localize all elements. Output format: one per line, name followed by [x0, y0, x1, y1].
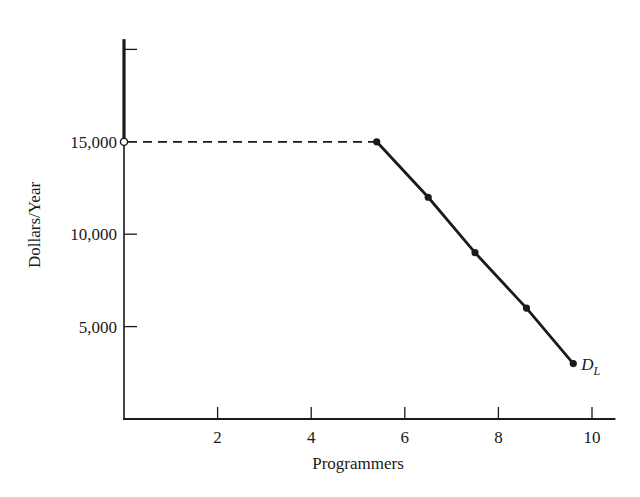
x-tick-label: 2: [213, 428, 222, 447]
series-label-subscript: L: [593, 364, 601, 378]
y-tick-label: 5,000: [79, 318, 117, 337]
data-point: [471, 249, 478, 256]
series-label-dl: DL: [580, 355, 600, 378]
y-ticks: 5,00010,00015,000: [70, 49, 137, 336]
data-point: [425, 194, 432, 201]
x-tick-label: 8: [494, 428, 503, 447]
data-point: [373, 138, 380, 145]
labor-demand-chart: 246810 5,00010,00015,000 Programmers Dol…: [0, 0, 640, 497]
data-point: [523, 305, 530, 312]
x-ticks: 246810: [213, 407, 600, 447]
series-dl: [373, 138, 577, 367]
y-tick-label: 10,000: [70, 225, 117, 244]
data-point: [570, 360, 577, 367]
x-tick-label: 4: [307, 428, 316, 447]
y-tick-label: 15,000: [70, 133, 117, 152]
open-circle-marker: [120, 138, 127, 145]
x-axis-label: Programmers: [312, 454, 404, 473]
x-tick-label: 10: [584, 428, 601, 447]
axes: [123, 39, 615, 419]
x-tick-label: 6: [401, 428, 410, 447]
annotations: [120, 138, 376, 145]
y-axis-label: Dollars/Year: [25, 182, 44, 268]
series-label-main: D: [580, 355, 594, 374]
